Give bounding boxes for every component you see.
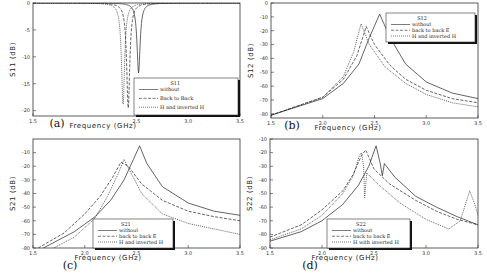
legend-entry: H and inverted H	[160, 104, 205, 110]
x-tick-label: 3.5	[236, 250, 244, 256]
x-tick-label: 3.5	[474, 120, 482, 126]
x-axis-label: Frequency (GHz)	[69, 122, 136, 130]
panel-c: -10-20-30-40-50-60-70-801.52.02.53.03.5F…	[9, 139, 244, 272]
y-tick-label: -15	[22, 81, 30, 87]
legend-entry: H with inverted H	[353, 239, 399, 245]
y-tick-label: -50	[22, 204, 30, 210]
y-tick-label: -30	[260, 41, 268, 47]
x-tick-label: 3.0	[422, 120, 430, 126]
series-without	[33, 3, 240, 73]
y-tick-label: -20	[22, 163, 30, 169]
legend-entry: without	[160, 86, 179, 92]
panel-a: 0-5-10-15-201.52.53.03.5Frequency (GHz)S…	[9, 0, 244, 130]
y-tick-label: -40	[260, 55, 268, 61]
y-tick-label: -10	[259, 136, 267, 142]
y-tick-label: -70	[22, 231, 30, 237]
x-axis-label: Frequency (GHz)	[314, 124, 381, 132]
y-tick-label: -40	[22, 190, 30, 196]
legend-entry: H and inverted H	[412, 33, 457, 39]
y-tick-label: -50	[259, 190, 267, 196]
x-tick-label: 3.0	[184, 118, 192, 124]
y-tick-label: -80	[260, 111, 268, 117]
y-axis-label: S21 (dB)	[9, 176, 17, 211]
x-tick-label: 1.5	[29, 118, 37, 124]
y-tick-label: -60	[259, 204, 267, 210]
panel-label: (c)	[63, 259, 78, 272]
y-tick-label: -5	[25, 27, 30, 33]
legend: S12withoutback to back EH and inverted H	[386, 13, 477, 44]
panel-b: 0-10-20-30-40-50-60-70-801.52.02.53.03.5…	[247, 0, 482, 132]
y-tick-label: -80	[259, 231, 267, 237]
x-tick-label: 3.0	[422, 250, 430, 256]
x-tick-label: 1.5	[267, 120, 275, 126]
figure-four-panel-sparameters: 0-5-10-15-201.52.53.03.5Frequency (GHz)S…	[0, 0, 487, 273]
y-tick-label: -20	[22, 107, 30, 113]
y-tick-label: -30	[22, 177, 30, 183]
panel-d: -10-20-30-40-50-60-70-80-901.52.02.53.03…	[246, 136, 482, 272]
y-tick-label: -60	[260, 83, 268, 89]
panel-label: (b)	[284, 119, 300, 132]
x-axis-label: Frequency (GHz)	[74, 254, 141, 262]
y-tick-label: -30	[259, 163, 267, 169]
y-axis-label: S12 (dB)	[247, 43, 255, 78]
y-axis-label: S22 (dB)	[246, 176, 254, 211]
panel-label: (a)	[49, 117, 64, 130]
y-tick-label: -70	[260, 97, 268, 103]
panel-label: (d)	[302, 259, 318, 272]
x-tick-label: 1.5	[266, 250, 274, 256]
y-tick-label: -60	[22, 218, 30, 224]
x-tick-label: 3.5	[474, 250, 482, 256]
y-tick-label: -70	[259, 218, 267, 224]
y-tick-label: 0	[27, 0, 30, 6]
legend-entry: H and inverted H	[119, 239, 164, 245]
y-tick-label: -10	[22, 54, 30, 60]
x-axis-label: Frequency (GHz)	[311, 254, 378, 262]
y-tick-label: -10	[22, 149, 30, 155]
y-tick-label: -20	[260, 28, 268, 34]
x-tick-label: 3.5	[236, 118, 244, 124]
legend-entry: Back to Back	[160, 95, 194, 101]
legend: S21withoutback to back EH and inverted H	[93, 219, 175, 250]
y-tick-label: 0	[265, 0, 268, 6]
x-tick-label: 3.0	[184, 250, 192, 256]
y-axis-label: S11 (dB)	[9, 42, 17, 77]
x-tick-label: 1.5	[29, 250, 37, 256]
legend: S22withoutback to back EH with inverted …	[327, 219, 412, 250]
legend: S11withoutBack to BackH and inverted H	[134, 78, 240, 117]
y-tick-label: -40	[259, 177, 267, 183]
y-tick-label: -50	[260, 69, 268, 75]
y-tick-label: -20	[259, 149, 267, 155]
y-tick-label: -10	[260, 14, 268, 20]
